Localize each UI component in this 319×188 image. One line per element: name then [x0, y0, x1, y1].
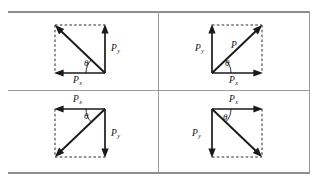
- panel-bottom-left: θ Px Py: [8, 91, 158, 170]
- px-label: Px: [229, 76, 238, 86]
- py-label: Py: [195, 44, 204, 54]
- frame-bottom-rule: [8, 172, 310, 174]
- py-label: Py: [192, 129, 201, 139]
- py-label: Py: [111, 44, 120, 54]
- px-label: Px: [229, 95, 238, 105]
- panel-top-left-drawing: [8, 11, 158, 90]
- panel-bottom-left-drawing: [8, 91, 158, 170]
- angle-label: θ: [225, 59, 230, 68]
- resultant-vector-line: [212, 31, 256, 73]
- panel-bottom-right: θ Px Py: [159, 91, 309, 170]
- py-arrow-head: [101, 148, 108, 158]
- py-arrow-head: [101, 24, 108, 34]
- angle-label: θ: [84, 112, 89, 121]
- frame-right-rule: [309, 11, 310, 173]
- panel-top-left: θ Py Px: [8, 11, 158, 90]
- py-label: Py: [111, 129, 120, 139]
- resultant-vector-line: [61, 109, 105, 151]
- resultant-vector-line: [212, 109, 256, 151]
- angle-label: θ: [84, 59, 89, 68]
- px-label: Px: [73, 95, 82, 105]
- panel-top-right: θ P Py Px: [159, 11, 309, 90]
- resultant-label: P: [231, 41, 237, 51]
- angle-label: θ: [223, 113, 228, 122]
- vector-components-figure: θ Py Px θ P Py Px: [0, 0, 319, 188]
- px-label: Px: [73, 76, 82, 86]
- resultant-vector-line: [61, 31, 105, 73]
